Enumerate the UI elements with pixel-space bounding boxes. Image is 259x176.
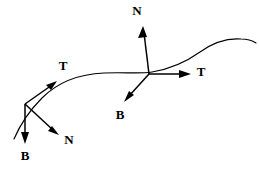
normal-vector-label: N: [132, 3, 142, 18]
left-tnb-frame: T N B: [21, 58, 75, 163]
diagram-canvas: T N B T: [0, 0, 259, 176]
right-normal-vector: N: [132, 3, 149, 74]
normal-vector-label: N: [64, 132, 74, 147]
binormal-vector-shaft: [129, 74, 149, 96]
binormal-vector-label: B: [116, 107, 125, 122]
tangent-vector-label: T: [197, 64, 206, 79]
tnb-frame-diagram: T N B T: [0, 0, 259, 176]
left-tangent-vector: T: [25, 58, 68, 104]
normal-vector-shaft: [144, 33, 149, 74]
left-binormal-vector: B: [21, 104, 30, 163]
tangent-vector-label: T: [59, 58, 68, 73]
right-binormal-vector: B: [116, 74, 149, 122]
left-normal-vector: N: [25, 104, 74, 147]
normal-vector-shaft: [25, 104, 53, 130]
binormal-vector-label: B: [21, 148, 30, 163]
tangent-arrowhead: [179, 70, 191, 78]
right-tnb-frame: T N B: [116, 3, 206, 122]
normal-arrowhead: [138, 26, 147, 38]
binormal-arrowhead: [21, 132, 29, 144]
